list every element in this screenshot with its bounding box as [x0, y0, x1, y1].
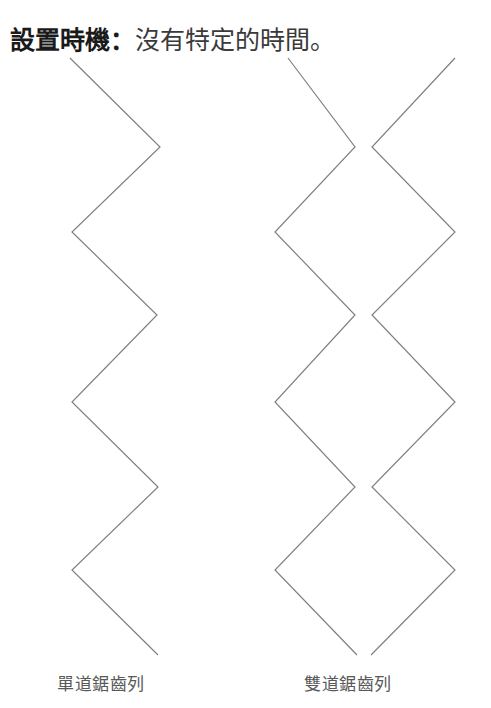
sawtooth-diagram [0, 0, 491, 670]
single-sawtooth-row [70, 58, 160, 655]
double-sawtooth-left-polyline [275, 58, 357, 655]
diagram-page: 設置時機：沒有特定的時間。 單道鋸齒列 雙道鋸齒列 [0, 0, 491, 708]
caption-double-sawtooth-row: 雙道鋸齒列 [304, 674, 392, 696]
caption-single-sawtooth-row: 單道鋸齒列 [57, 674, 145, 696]
double-sawtooth-right-polyline [371, 58, 455, 655]
